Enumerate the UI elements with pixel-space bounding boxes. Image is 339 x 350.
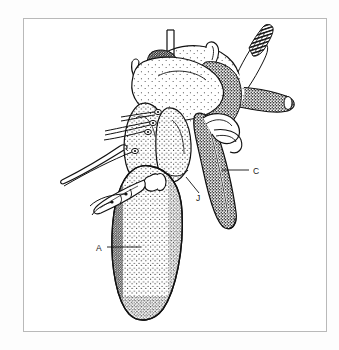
heart-illustration [61, 24, 295, 330]
label-a: A [96, 243, 102, 253]
figure-root: A C J [0, 0, 339, 350]
leader-line-j [186, 177, 199, 193]
anatomical-drawing: A C J [0, 0, 339, 350]
label-c: C [253, 166, 259, 176]
instrument-arm [61, 145, 127, 184]
label-j: J [196, 193, 201, 203]
cannula-tube [194, 113, 240, 229]
